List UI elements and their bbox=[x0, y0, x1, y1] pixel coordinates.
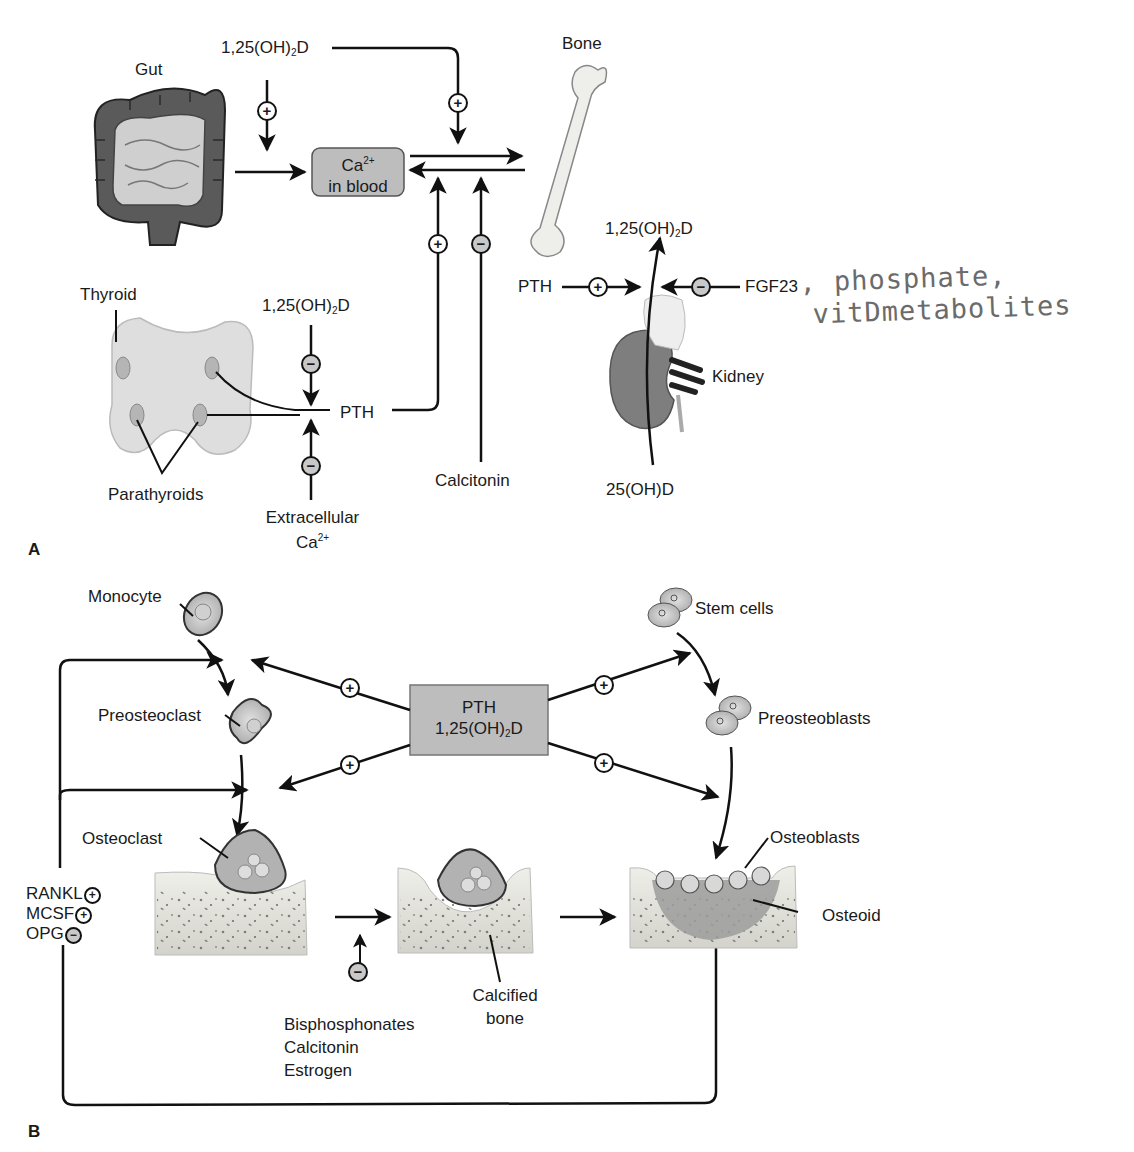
negative-effect-icon: − bbox=[65, 927, 82, 944]
preosteoblast-cells bbox=[706, 696, 751, 735]
thyroid-illustration bbox=[110, 310, 330, 473]
positive-effect-icon: + bbox=[448, 93, 468, 113]
inhibitor-item: Calcitonin bbox=[284, 1038, 414, 1058]
panel-a-letter: A bbox=[28, 540, 40, 560]
osteoid-label: Osteoid bbox=[822, 906, 881, 926]
positive-effect-icon: + bbox=[594, 675, 614, 695]
inhibitor-list: Bisphosphonates Calcitonin Estrogen bbox=[284, 1015, 414, 1081]
calcitriol-label-top: 1,25(OH)2D bbox=[221, 38, 309, 63]
calcified-bone-label: Calcified bone bbox=[465, 986, 545, 1029]
positive-effect-icon: + bbox=[75, 907, 92, 924]
extracellular-ca-label: Extracellular Ca2+ bbox=[250, 508, 375, 553]
osteoblasts-label: Osteoblasts bbox=[770, 828, 860, 848]
negative-effect-icon: − bbox=[471, 234, 491, 254]
ca-in-blood-label: Ca2+ in blood bbox=[312, 150, 404, 197]
stem-cells bbox=[648, 588, 692, 627]
preosteoclast-cell bbox=[225, 699, 271, 743]
pth-label-kidney: PTH bbox=[518, 277, 552, 297]
monocyte-cell bbox=[176, 586, 229, 642]
pth-calcitriol-label: PTH 1,25(OH)2D bbox=[410, 697, 548, 744]
bone-sample-resorption bbox=[155, 830, 307, 955]
thyroid-label: Thyroid bbox=[80, 285, 137, 305]
kidney-illustration bbox=[610, 295, 702, 432]
positive-effect-icon: + bbox=[84, 887, 101, 904]
parathyroids-label: Parathyroids bbox=[108, 485, 203, 505]
calcitriol-label-parathyroid: 1,25(OH)2D bbox=[262, 296, 350, 321]
negative-effect-icon: − bbox=[301, 354, 321, 374]
positive-effect-icon: + bbox=[588, 277, 608, 297]
inhibitor-item: Bisphosphonates bbox=[284, 1015, 414, 1035]
positive-effect-icon: + bbox=[340, 755, 360, 775]
bone-sample-cavity bbox=[398, 849, 533, 982]
regulator-mcsf: MCSF+ bbox=[26, 904, 101, 924]
preosteoclast-label: Preosteoclast bbox=[98, 706, 201, 726]
gut-illustration bbox=[95, 89, 225, 245]
bone-sample-formation bbox=[630, 838, 798, 948]
pth-label-parathyroid: PTH bbox=[340, 403, 374, 423]
gut-label: Gut bbox=[135, 60, 162, 80]
regulator-opg: OPG− bbox=[26, 924, 101, 944]
precursor-label: 25(OH)D bbox=[606, 480, 674, 500]
bone-calcium-regulation-diagram bbox=[0, 0, 1134, 1152]
kidney-label: Kidney bbox=[712, 367, 764, 387]
positive-effect-icon: + bbox=[340, 678, 360, 698]
handwritten-annotation: , phosphate, vitDmetabolites bbox=[799, 257, 1072, 330]
inhibitor-item: Estrogen bbox=[284, 1061, 414, 1081]
calcitonin-label: Calcitonin bbox=[435, 471, 510, 491]
osteoclast-label: Osteoclast bbox=[82, 829, 162, 849]
positive-effect-icon: + bbox=[257, 101, 277, 121]
stem-cells-label: Stem cells bbox=[695, 599, 773, 619]
negative-effect-icon: − bbox=[348, 962, 368, 982]
negative-effect-icon: − bbox=[691, 277, 711, 297]
monocyte-label: Monocyte bbox=[88, 587, 162, 607]
negative-effect-icon: − bbox=[301, 456, 321, 476]
positive-effect-icon: + bbox=[594, 753, 614, 773]
preosteoblasts-label: Preosteoblasts bbox=[758, 709, 870, 729]
positive-effect-icon: + bbox=[428, 234, 448, 254]
regulator-rankl: RANKL+ bbox=[26, 884, 101, 904]
bone-label: Bone bbox=[562, 34, 602, 54]
calcitriol-label-kidney: 1,25(OH)2D bbox=[605, 219, 693, 244]
regulator-list: RANKL+ MCSF+ OPG− bbox=[26, 884, 101, 944]
fgf23-label: FGF23 bbox=[745, 277, 798, 297]
bone-illustration bbox=[531, 65, 606, 256]
panel-b-letter: B bbox=[28, 1122, 40, 1142]
